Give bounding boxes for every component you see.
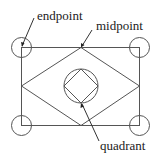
endpoint-label: endpoint (37, 8, 83, 23)
midpoint-diamond (22, 48, 140, 126)
quadrant-label: quadrant (100, 138, 146, 153)
snap-points-diagram: endpoint midpoint quadrant (0, 0, 158, 163)
endpoint-arrowhead (21, 42, 25, 47)
midpoint-leader-line (82, 30, 92, 46)
endpoint-leader-line (22, 18, 34, 46)
center-circle (64, 69, 98, 103)
midpoint-label: midpoint (96, 18, 143, 33)
rectangle (22, 48, 140, 126)
